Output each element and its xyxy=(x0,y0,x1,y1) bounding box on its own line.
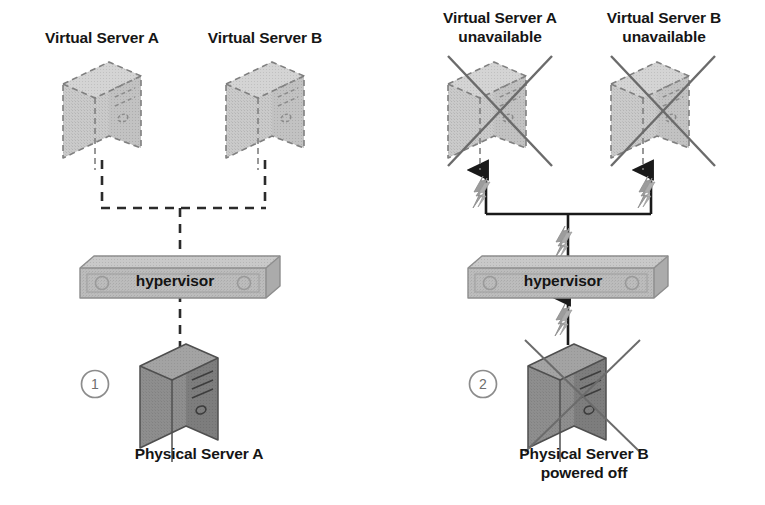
panel-1-step-number: 1 xyxy=(82,371,108,397)
virtual-server-a-unavailable-label: Virtual Server A unavailable xyxy=(414,8,586,46)
fault-bolt-a-icon xyxy=(473,176,490,208)
fault-bolt-trunk-icon xyxy=(555,226,572,258)
diagram-graphics xyxy=(0,0,765,505)
virtual-server-b-icon xyxy=(226,62,304,170)
panel-1-hypervisor-label: hypervisor xyxy=(100,272,250,290)
panel-2-graphics xyxy=(448,56,715,462)
panel-1-graphics xyxy=(63,62,304,462)
diagram-canvas: Virtual Server A Virtual Server B hyperv… xyxy=(0,0,765,505)
physical-server-b-label: Physical Server B powered off xyxy=(489,444,679,482)
panel-2-hypervisor-label: hypervisor xyxy=(488,272,638,290)
virtual-server-b-unavailable-label: Virtual Server B unavailable xyxy=(578,8,750,46)
virtual-server-a-icon xyxy=(63,62,141,170)
virtual-server-b-label: Virtual Server B xyxy=(190,28,340,47)
fault-bolt-b-icon xyxy=(638,176,655,208)
physical-server-a-label: Physical Server A xyxy=(104,444,294,463)
panel-1-connections xyxy=(101,160,266,347)
virtual-server-a-label: Virtual Server A xyxy=(27,28,177,47)
fault-bolt-physical-icon xyxy=(555,304,572,336)
panel-2-step-number: 2 xyxy=(470,371,496,397)
